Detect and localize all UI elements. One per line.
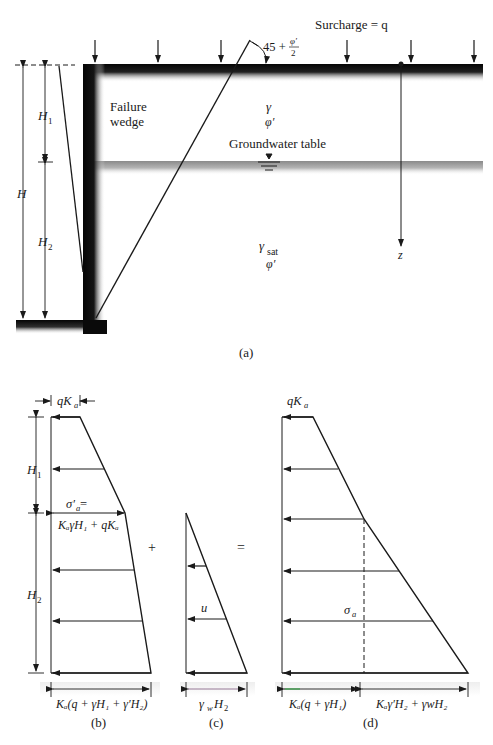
svg-text:=: =	[80, 497, 87, 511]
pressure-arrows-c	[188, 566, 247, 673]
svg-text:H: H	[37, 234, 48, 249]
bottom-label-b: Kₐ(q + γH₁ + γ′H₂)	[55, 697, 147, 711]
svg-text:σ: σ	[344, 603, 351, 617]
svg-text:2: 2	[48, 242, 53, 252]
svg-text:w: w	[207, 703, 213, 713]
angle-label: 45 + φ′ 2	[263, 36, 299, 58]
svg-text:wedge: wedge	[110, 114, 144, 129]
bottom-right-label-d: Kₐγ′H₂ + γwH₂	[375, 697, 447, 711]
svg-text:2: 2	[224, 703, 228, 713]
ground-surface	[83, 64, 483, 82]
svg-text:2: 2	[37, 595, 42, 605]
svg-text:γ: γ	[259, 238, 265, 253]
plus-operator: +	[148, 540, 156, 555]
svg-text:qK: qK	[57, 394, 72, 408]
svg-text:sat: sat	[267, 246, 278, 257]
bottom-label-c: γ w H 2	[199, 697, 228, 713]
caption-c: (c)	[209, 715, 223, 730]
pressure-diagram-b	[51, 417, 151, 673]
unit-weight-upper: γ	[266, 99, 272, 114]
svg-text:H: H	[26, 587, 37, 602]
pore-pressure-label: u	[201, 601, 207, 615]
pressure-arrows-b	[53, 417, 151, 673]
pressure-diagram-c	[186, 513, 247, 673]
svg-text:σ′: σ′	[66, 497, 75, 511]
friction-angle-upper: φ′	[265, 115, 275, 129]
dimension-H-label: H	[16, 186, 27, 201]
sigma-prime-value: KₐγH₁ + qKₐ	[57, 518, 119, 532]
svg-text:φ′: φ′	[290, 36, 298, 46]
groundwater-table-label: Groundwater table	[229, 136, 326, 151]
svg-text:1: 1	[37, 470, 42, 480]
dimension-H1-b: H 1	[26, 462, 42, 480]
unit-weight-saturated: γ sat	[259, 238, 278, 257]
pressure-diagram-d	[282, 417, 468, 673]
caption-b: (b)	[91, 715, 106, 730]
svg-text:γ: γ	[199, 697, 205, 711]
svg-text:a: a	[74, 400, 78, 410]
svg-text:a: a	[352, 609, 356, 619]
bottom-left-label-d: Kₐ(q + γH₁)	[288, 697, 346, 711]
caption-a: (a)	[239, 345, 253, 360]
svg-text:2: 2	[291, 48, 296, 58]
svg-text:a: a	[304, 400, 308, 410]
svg-text:H: H	[37, 108, 48, 123]
svg-text:1: 1	[48, 116, 53, 126]
sigma-prime-label: σ′ a =	[66, 497, 87, 513]
figure-a-retaining-wall: Surcharge = q 45 + φ′ 2 Failure wedge γ …	[15, 17, 483, 360]
svg-text:H: H	[213, 697, 224, 711]
figure-d-total-pressure: qK a σ a Kₐ(q + γH₁) Kₐγ′H₂ + γwH₂	[275, 394, 480, 730]
pressure-profile-line	[59, 66, 83, 272]
depth-axis-label: z	[397, 248, 403, 262]
dimension-H2-b: H 2	[26, 587, 42, 605]
sigma-a-label: σ a	[344, 603, 356, 619]
svg-text:H: H	[26, 462, 37, 477]
surcharge-label: Surcharge = q	[315, 17, 388, 32]
qka-label-b: qK a	[57, 394, 78, 410]
figure-b-effective-pressure: qK a σ′ a = KₐγH₁ + qKₐ	[26, 394, 160, 730]
svg-text:qK: qK	[287, 394, 302, 408]
qka-label-d: qK a	[287, 394, 308, 410]
svg-text:45 +: 45 +	[263, 40, 286, 54]
caption-d: (d)	[363, 715, 378, 730]
equals-operator: =	[237, 540, 245, 555]
friction-angle-lower: φ′	[266, 257, 276, 271]
pressure-arrows-d	[284, 417, 468, 673]
groundwater-band	[93, 161, 483, 175]
diagram-canvas: Surcharge = q 45 + φ′ 2 Failure wedge γ …	[0, 0, 493, 745]
retaining-wall	[83, 64, 105, 326]
failure-wedge-label: Failure	[110, 99, 147, 114]
